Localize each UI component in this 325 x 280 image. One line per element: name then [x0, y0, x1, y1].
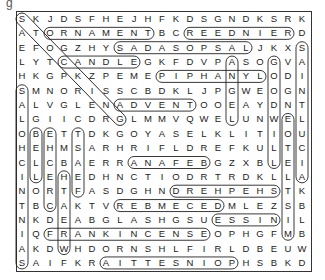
grid-letter[interactable]: L [29, 98, 43, 112]
grid-letter[interactable]: S [141, 213, 155, 227]
grid-letter[interactable]: K [71, 199, 85, 213]
grid-letter[interactable]: N [15, 213, 29, 227]
grid-letter[interactable]: T [57, 184, 71, 198]
grid-letter[interactable]: R [197, 170, 211, 184]
grid-letter[interactable]: U [239, 112, 253, 126]
grid-letter[interactable]: L [239, 199, 253, 213]
grid-letter[interactable]: K [29, 12, 43, 26]
grid-letter[interactable]: L [113, 213, 127, 227]
grid-letter[interactable]: P [57, 69, 71, 83]
grid-letter[interactable]: E [225, 98, 239, 112]
grid-letter[interactable]: K [211, 127, 225, 141]
grid-letter[interactable]: Z [85, 69, 99, 83]
grid-letter[interactable]: O [57, 84, 71, 98]
grid-letter[interactable]: F [267, 227, 281, 241]
grid-letter[interactable]: S [15, 84, 29, 98]
grid-letter[interactable]: P [155, 69, 169, 83]
grid-letter[interactable]: S [295, 41, 309, 55]
grid-letter[interactable]: T [211, 170, 225, 184]
grid-letter[interactable]: I [57, 112, 71, 126]
grid-letter[interactable]: I [155, 170, 169, 184]
grid-letter[interactable]: E [113, 26, 127, 40]
grid-letter[interactable]: G [29, 112, 43, 126]
grid-letter[interactable]: D [43, 242, 57, 256]
grid-letter[interactable]: L [113, 55, 127, 69]
grid-letter[interactable]: B [253, 156, 267, 170]
grid-letter[interactable]: K [253, 12, 267, 26]
grid-letter[interactable]: C [43, 156, 57, 170]
grid-letter[interactable]: E [197, 26, 211, 40]
grid-letter[interactable]: E [267, 26, 281, 40]
grid-letter[interactable]: Q [183, 112, 197, 126]
grid-letter[interactable]: E [197, 227, 211, 241]
grid-letter[interactable]: J [127, 12, 141, 26]
grid-letter[interactable]: K [295, 184, 309, 198]
grid-letter[interactable]: I [281, 213, 295, 227]
grid-letter[interactable]: O [211, 98, 225, 112]
grid-letter[interactable]: H [71, 242, 85, 256]
grid-letter[interactable]: H [211, 184, 225, 198]
grid-letter[interactable]: D [211, 199, 225, 213]
grid-letter[interactable]: I [113, 256, 127, 270]
grid-letter[interactable]: A [211, 69, 225, 83]
grid-letter[interactable]: S [71, 141, 85, 155]
grid-letter[interactable]: C [295, 141, 309, 155]
grid-letter[interactable]: L [29, 156, 43, 170]
grid-letter[interactable]: T [183, 98, 197, 112]
grid-letter[interactable]: N [225, 69, 239, 83]
grid-letter[interactable]: C [57, 55, 71, 69]
grid-letter[interactable]: B [155, 26, 169, 40]
grid-letter[interactable]: J [253, 41, 267, 55]
grid-letter[interactable]: N [267, 213, 281, 227]
grid-letter[interactable]: N [99, 98, 113, 112]
grid-letter[interactable]: N [169, 98, 183, 112]
grid-letter[interactable]: N [225, 12, 239, 26]
grid-letter[interactable]: E [141, 69, 155, 83]
grid-letter[interactable]: B [197, 156, 211, 170]
grid-letter[interactable]: I [295, 69, 309, 83]
grid-letter[interactable]: L [169, 141, 183, 155]
grid-letter[interactable]: H [141, 12, 155, 26]
grid-letter[interactable]: N [127, 227, 141, 241]
grid-letter[interactable]: H [239, 227, 253, 241]
grid-letter[interactable]: E [155, 227, 169, 241]
grid-letter[interactable]: H [155, 242, 169, 256]
grid-letter[interactable]: N [15, 184, 29, 198]
grid-letter[interactable]: L [295, 112, 309, 126]
grid-letter[interactable]: U [197, 213, 211, 227]
grid-letter[interactable]: E [127, 55, 141, 69]
grid-letter[interactable]: A [113, 98, 127, 112]
grid-letter[interactable]: Z [71, 41, 85, 55]
grid-letter[interactable]: F [57, 256, 71, 270]
grid-letter[interactable]: L [71, 98, 85, 112]
grid-letter[interactable]: A [85, 26, 99, 40]
grid-letter[interactable]: T [141, 26, 155, 40]
grid-letter[interactable]: T [141, 170, 155, 184]
grid-letter[interactable]: G [169, 213, 183, 227]
grid-letter[interactable]: P [225, 256, 239, 270]
grid-letter[interactable]: K [99, 127, 113, 141]
grid-letter[interactable]: O [267, 84, 281, 98]
grid-letter[interactable]: E [197, 199, 211, 213]
grid-letter[interactable]: R [197, 141, 211, 155]
grid-letter[interactable]: S [169, 127, 183, 141]
grid-letter[interactable]: X [239, 156, 253, 170]
grid-letter[interactable]: E [43, 127, 57, 141]
grid-letter[interactable]: D [239, 12, 253, 26]
grid-letter[interactable]: E [71, 170, 85, 184]
grid-letter[interactable]: D [183, 170, 197, 184]
grid-letter[interactable]: H [197, 69, 211, 83]
grid-letter[interactable]: R [99, 156, 113, 170]
grid-letter[interactable]: M [127, 69, 141, 83]
grid-letter[interactable]: E [183, 156, 197, 170]
grid-letter[interactable]: K [169, 84, 183, 98]
grid-letter[interactable]: E [113, 12, 127, 26]
grid-letter[interactable]: I [43, 112, 57, 126]
grid-letter[interactable]: I [113, 227, 127, 241]
grid-letter[interactable]: A [295, 55, 309, 69]
grid-letter[interactable]: A [71, 156, 85, 170]
grid-letter[interactable]: S [183, 227, 197, 241]
grid-letter[interactable]: F [155, 12, 169, 26]
grid-letter[interactable]: K [155, 55, 169, 69]
grid-letter[interactable]: L [127, 112, 141, 126]
